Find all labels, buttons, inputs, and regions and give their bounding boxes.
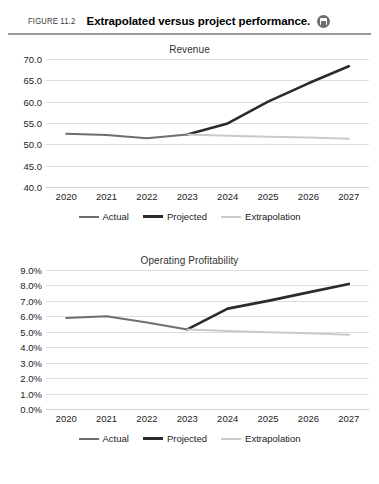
legend-item-projected[interactable]: Projected <box>143 433 207 444</box>
x-axis-tick-label: 2026 <box>288 409 328 427</box>
plot-area: 40.045.050.055.060.065.070.0 <box>46 59 369 187</box>
y-axis-tick-label: 7.0% <box>20 295 42 306</box>
legend-label: Extrapolation <box>245 433 300 444</box>
y-axis-tick-label: 3.0% <box>20 357 42 368</box>
legend-swatch-icon <box>143 437 163 440</box>
y-axis-tick-label: 2.0% <box>20 373 42 384</box>
x-axis-tick-label: 2025 <box>248 187 288 205</box>
x-axis-tick-label: 2024 <box>208 409 248 427</box>
legend-swatch-icon <box>143 215 163 218</box>
legend-label: Extrapolation <box>245 211 300 222</box>
x-axis: 20202021202220232024202520262027 <box>46 187 369 205</box>
legend-label: Projected <box>167 211 207 222</box>
figure-page: FIGURE 11.2 Extrapolated versus project … <box>0 0 379 484</box>
x-axis-tick-label: 2023 <box>167 409 207 427</box>
y-axis-tick-label: 45.0 <box>24 160 43 171</box>
x-axis-tick-label: 2023 <box>167 187 207 205</box>
legend-swatch-icon <box>79 438 99 440</box>
x-axis-tick-label: 2020 <box>46 409 86 427</box>
series-line-actual <box>66 316 187 329</box>
y-axis-tick-label: 50.0 <box>24 139 43 150</box>
chart-operating-profitability: Operating Profitability 0.0%1.0%2.0%3.0%… <box>0 255 379 480</box>
legend-item-extrapolation[interactable]: Extrapolation <box>221 211 300 222</box>
plot-wrapper: 40.045.050.055.060.065.070.0 <box>0 59 369 187</box>
x-axis-tick-label: 2026 <box>288 187 328 205</box>
x-axis-tick-label: 2022 <box>127 187 167 205</box>
y-axis-tick-label: 0.0% <box>20 404 42 415</box>
series-line-extrapolation <box>187 329 349 334</box>
series-line-actual <box>66 134 187 139</box>
series-line-extrapolation <box>187 135 349 139</box>
chart-revenue: Revenue 40.045.050.055.060.065.070.0 202… <box>0 44 379 244</box>
y-axis-tick-label: 8.0% <box>20 280 42 291</box>
x-axis: 20202021202220232024202520262027 <box>46 409 369 427</box>
legend-swatch-icon <box>221 216 241 218</box>
series-layer <box>46 270 369 409</box>
legend-item-extrapolation[interactable]: Extrapolation <box>221 433 300 444</box>
y-axis-tick-label: 1.0% <box>20 388 42 399</box>
y-axis-tick-label: 40.0 <box>24 182 43 193</box>
y-axis-tick-label: 65.0 <box>24 75 43 86</box>
caption-divider <box>8 33 371 35</box>
y-axis-tick-label: 9.0% <box>20 265 42 276</box>
save-disk-icon[interactable] <box>317 15 330 28</box>
y-axis-tick-label: 5.0% <box>20 326 42 337</box>
x-axis-tick-label: 2022 <box>127 409 167 427</box>
y-axis-tick-label: 70.0 <box>24 54 43 65</box>
legend-label: Actual <box>103 433 129 444</box>
legend-label: Projected <box>167 433 207 444</box>
legend-item-actual[interactable]: Actual <box>79 211 129 222</box>
y-axis-tick-label: 55.0 <box>24 118 43 129</box>
legend-item-projected[interactable]: Projected <box>143 211 207 222</box>
y-axis-tick-label: 6.0% <box>20 311 42 322</box>
y-axis-tick-label: 4.0% <box>20 342 42 353</box>
figure-caption: FIGURE 11.2 Extrapolated versus project … <box>0 8 379 34</box>
legend-item-actual[interactable]: Actual <box>79 433 129 444</box>
plot-area: 0.0%1.0%2.0%3.0%4.0%5.0%6.0%7.0%8.0%9.0% <box>46 270 369 409</box>
legend-swatch-icon <box>79 216 99 218</box>
x-axis-tick-label: 2024 <box>208 187 248 205</box>
x-axis-tick-label: 2027 <box>329 187 369 205</box>
figure-title: Extrapolated versus project performance. <box>87 15 311 27</box>
figure-number: FIGURE 11.2 <box>28 16 75 26</box>
x-axis-tick-label: 2027 <box>329 409 369 427</box>
x-axis-tick-label: 2021 <box>86 409 126 427</box>
x-axis-tick-label: 2021 <box>86 187 126 205</box>
chart-title: Operating Profitability <box>0 255 379 266</box>
chart-title: Revenue <box>0 44 379 55</box>
y-axis-tick-label: 60.0 <box>24 96 43 107</box>
legend-swatch-icon <box>221 438 241 440</box>
legend-label: Actual <box>103 211 129 222</box>
series-line-projected <box>187 66 349 134</box>
series-line-projected <box>187 284 349 330</box>
chart-legend: ActualProjectedExtrapolation <box>0 433 379 444</box>
x-axis-tick-label: 2020 <box>46 187 86 205</box>
x-axis-tick-label: 2025 <box>248 409 288 427</box>
plot-wrapper: 0.0%1.0%2.0%3.0%4.0%5.0%6.0%7.0%8.0%9.0% <box>0 270 369 409</box>
series-layer <box>46 59 369 187</box>
chart-legend: ActualProjectedExtrapolation <box>0 211 379 222</box>
